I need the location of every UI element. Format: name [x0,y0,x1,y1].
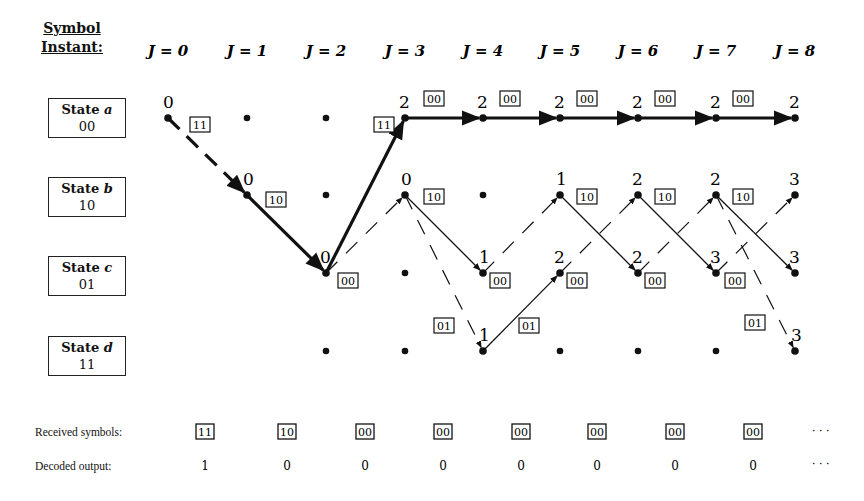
instant-label: J = 7 [693,42,737,60]
trellis-branch [405,195,480,270]
path-metric: 3 [789,247,800,267]
trellis-node [323,192,330,199]
decoded-bit: 0 [439,459,447,473]
svg-text:10: 10 [269,194,283,207]
trellis-node [243,191,251,199]
trellis-branch [716,198,792,273]
instant-label: J = 8 [772,42,816,60]
branch-symbol-box: 11 [190,117,210,132]
trellis-branches [168,118,793,351]
path-metric: 1 [479,325,490,345]
received-symbol: 00 [744,424,762,439]
branch-symbol-box: 10 [424,189,444,204]
trellis-branch [483,198,557,273]
svg-text:01: 01 [748,317,762,330]
path-metric: 0 [163,92,174,112]
svg-text:00: 00 [728,275,742,288]
svg-text:00: 00 [503,93,517,106]
svg-text:10: 10 [280,426,294,439]
received-symbol: 00 [356,424,374,439]
svg-text:00: 00 [341,275,355,288]
trellis-node [323,115,330,122]
branch-symbol-box: 00 [424,91,444,106]
svg-text:10: 10 [580,191,594,204]
trellis-nodes: 000202112122222232333 [163,92,802,355]
branch-symbol-box: 00 [733,91,753,106]
decoded-bit: 0 [283,459,291,473]
trellis-node [712,191,720,199]
path-metric: 3 [710,247,721,267]
svg-text:00: 00 [658,93,672,106]
instant-label: J = 1 [224,42,268,60]
svg-text:11: 11 [377,119,391,132]
svg-text:10: 10 [736,191,750,204]
path-metric: 2 [399,92,410,112]
branch-symbol-box: 00 [567,273,587,288]
branch-symbol-box: 00 [338,273,358,288]
decoded-bit: 0 [749,459,757,473]
path-metric: 1 [556,169,567,189]
svg-text:11: 11 [198,426,212,439]
decoded-bit: 1 [201,459,209,473]
branch-symbol-box: 10 [266,192,286,207]
trellis-node [401,191,409,199]
instant-label: J = 2 [303,42,347,60]
decoded-bit: 0 [517,459,525,473]
branch-symbol-box: 00 [577,91,597,106]
instant-label: J = 5 [537,42,581,60]
path-metric: 1 [479,247,490,267]
trellis-branch [326,198,402,273]
received-symbol: 11 [196,424,214,439]
received-symbol: 10 [278,424,296,439]
trellis-node [479,347,487,355]
decoded-ellipsis: · · · [812,458,829,471]
branch-symbol-box: 00 [725,273,745,288]
svg-text:00: 00 [358,426,372,439]
path-metric: 2 [632,247,643,267]
decoded-bit: 0 [671,459,679,473]
path-metric: 2 [789,92,800,112]
svg-text:00: 00 [580,93,594,106]
received-ellipsis: · · · [812,425,829,438]
branch-symbol-box: 01 [519,318,539,333]
svg-text:00: 00 [436,426,450,439]
trellis-node [556,269,564,277]
branch-symbol-box: 11 [374,117,394,132]
path-metric: 0 [320,247,331,267]
branch-symbol-box: 00 [490,273,510,288]
received-decoded-rows: 1110000000000000· · ·10000000· · · [196,424,829,473]
instant-label: J = 4 [460,42,504,60]
svg-text:10: 10 [658,191,672,204]
trellis-diagram: J = 0J = 1J = 2J = 3J = 4J = 5J = 6J = 7… [0,0,864,501]
trellis-branch [638,195,713,270]
branch-symbol-box: 00 [655,91,675,106]
trellis-node [712,269,720,277]
trellis-node [244,115,251,122]
path-metric: 2 [554,92,565,112]
trellis-node [557,348,564,355]
svg-text:00: 00 [570,275,584,288]
trellis-node [712,114,720,122]
received-symbol: 00 [512,424,530,439]
trellis-branch [560,198,635,273]
trellis-node [402,348,409,355]
instant-labels: J = 0J = 1J = 2J = 3J = 4J = 5J = 6J = 7… [145,42,816,60]
trellis-branch [638,198,713,273]
instant-label: J = 6 [615,42,659,60]
trellis-node [791,191,799,199]
svg-text:01: 01 [437,320,451,333]
svg-text:00: 00 [746,426,760,439]
branch-symbol-box: 01 [745,315,765,330]
trellis-node [791,269,799,277]
path-metric: 3 [791,325,802,345]
branch-symbol-box: 10 [655,189,675,204]
svg-text:00: 00 [648,275,662,288]
trellis-node [713,348,720,355]
decoded-bit: 0 [361,459,369,473]
trellis-node [635,348,642,355]
trellis-node [791,347,799,355]
trellis-node [634,191,642,199]
trellis-node [634,114,642,122]
svg-text:00: 00 [590,426,604,439]
branch-symbol-box: 00 [645,273,665,288]
